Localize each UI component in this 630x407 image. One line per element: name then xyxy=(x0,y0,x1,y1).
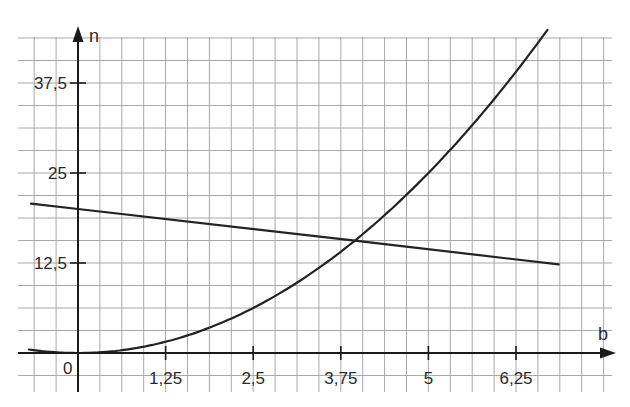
y-tick-label: 37,5 xyxy=(34,74,67,93)
x-tick-label: 3,75 xyxy=(324,369,357,388)
parabola-curve xyxy=(29,30,548,353)
x-tick-label: 5 xyxy=(424,369,433,388)
plot-series xyxy=(29,30,559,353)
y-axis-label: n xyxy=(89,26,99,46)
chart: b n 0 1,252,53,7556,2512,52537,5 xyxy=(0,0,630,407)
axis-ticks: 1,252,53,7556,2512,52537,5 xyxy=(34,74,533,388)
straight-line xyxy=(31,204,559,265)
axes: b n 0 xyxy=(18,26,616,392)
x-tick-label: 2,5 xyxy=(241,369,265,388)
y-axis-arrow-icon xyxy=(73,26,84,42)
x-tick-label: 6,25 xyxy=(499,369,532,388)
y-tick-label: 12,5 xyxy=(34,254,67,273)
origin-label: 0 xyxy=(63,359,72,378)
x-tick-label: 1,25 xyxy=(149,369,182,388)
y-tick-label: 25 xyxy=(48,164,67,183)
grid-lines xyxy=(18,37,612,392)
x-axis-label: b xyxy=(598,324,608,344)
x-axis-arrow-icon xyxy=(600,348,616,359)
